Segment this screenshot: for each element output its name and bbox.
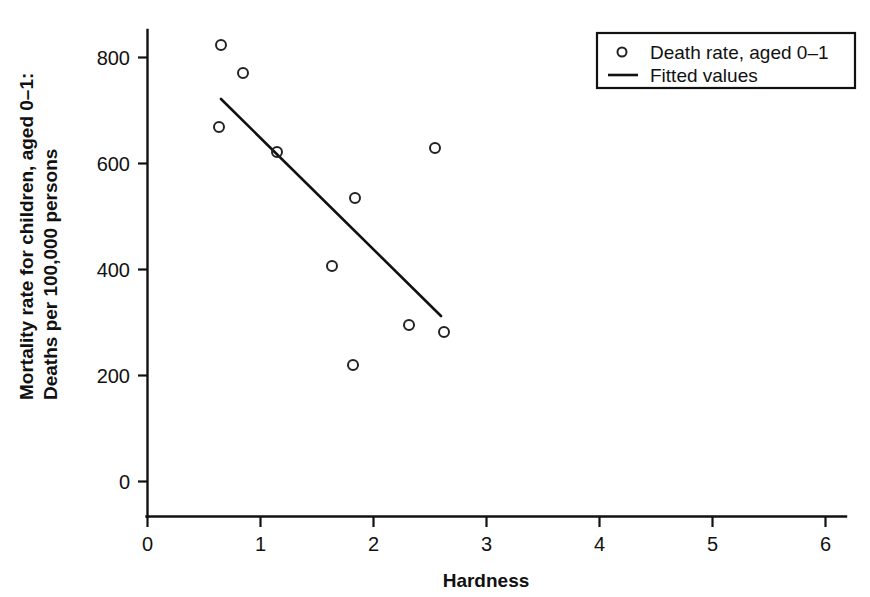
y-tick-label-600: 600 — [97, 153, 130, 175]
y-axis-title-line1: Mortality rate for children, aged 0–1: — [16, 73, 37, 400]
x-tick-label-5: 5 — [707, 533, 718, 555]
y-tick-label-800: 800 — [97, 47, 130, 69]
x-tick-label-0: 0 — [142, 533, 153, 555]
x-tick-label-3: 3 — [481, 533, 492, 555]
y-axis-title-line2: Deaths per 100,000 persons — [40, 149, 61, 400]
x-tick-label-6: 6 — [820, 533, 831, 555]
y-tick-label-0: 0 — [119, 471, 130, 493]
x-axis-title: Hardness — [443, 570, 530, 591]
x-tick-label-1: 1 — [255, 533, 266, 555]
y-tick-label-400: 400 — [97, 259, 130, 281]
chart-legend: Death rate, aged 0–1 Fitted values — [597, 33, 855, 88]
legend-label-fitted-values: Fitted values — [650, 65, 758, 86]
y-tick-label-200: 200 — [97, 365, 130, 387]
x-tick-label-2: 2 — [368, 533, 379, 555]
plot-background — [0, 0, 870, 597]
legend-label-death-rate: Death rate, aged 0–1 — [650, 42, 829, 63]
x-tick-label-4: 4 — [594, 533, 605, 555]
chart-figure: 800 600 400 200 0 0 1 2 3 4 5 6 Hardne — [0, 0, 870, 597]
scatter-plot: 800 600 400 200 0 0 1 2 3 4 5 6 Hardne — [0, 0, 870, 597]
